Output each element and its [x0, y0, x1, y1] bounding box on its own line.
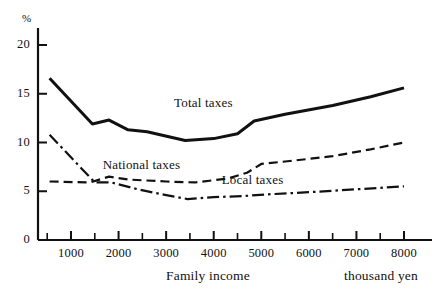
series-label-local-taxes: Local taxes — [222, 172, 284, 188]
x-tick-label: 7000 — [334, 246, 378, 261]
x-axis-title: Family income — [166, 268, 250, 284]
y-tick-label: 20 — [6, 37, 30, 52]
y-tick-label: 5 — [6, 183, 30, 198]
y-axis-unit-label: % — [22, 12, 31, 24]
x-axis-ticks — [47, 231, 404, 240]
chart-figure: % 05101520100020003000400050006000700080… — [0, 0, 439, 299]
x-tick-label: 6000 — [287, 246, 331, 261]
x-tick-label: 2000 — [97, 246, 141, 261]
y-axis-ticks — [38, 45, 47, 240]
y-tick-label: 0 — [6, 232, 30, 247]
x-tick-label: 8000 — [382, 246, 426, 261]
y-tick-label: 10 — [6, 135, 30, 150]
series-label-total-taxes: Total taxes — [174, 95, 233, 111]
series-label-national-taxes: National taxes — [103, 157, 181, 173]
x-tick-label: 5000 — [239, 246, 283, 261]
y-tick-label: 15 — [6, 86, 30, 101]
x-tick-label: 3000 — [144, 246, 188, 261]
x-axis-unit-label: thousand yen — [344, 268, 418, 284]
x-tick-label: 1000 — [49, 246, 93, 261]
x-tick-label: 4000 — [192, 246, 236, 261]
